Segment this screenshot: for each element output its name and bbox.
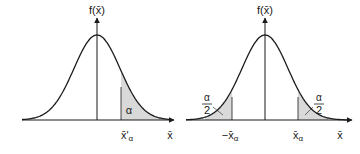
left-critical-main: −x̄	[222, 129, 234, 141]
fraction-denominator: 2	[316, 104, 322, 116]
two-sided-diagram: f(x̄) α 2 α 2 −x̄α x̄α x̄	[186, 4, 352, 143]
y-axis-label: f(x̄)	[257, 4, 273, 16]
left-tail-area-label: α 2	[202, 92, 223, 116]
one-sided-diagram: f(x̄) α x̄'α x̄	[22, 4, 174, 143]
right-critical-value-label: x̄α	[293, 129, 304, 143]
distribution-diagrams: f(x̄) α x̄'α x̄ f(x̄) α 2 α 2 −	[0, 0, 360, 154]
critical-value-label: x̄'α	[121, 129, 134, 143]
left-critical-value-label: −x̄α	[222, 129, 239, 143]
critical-value-main: x̄'	[121, 129, 129, 141]
left-critical-subscript: α	[234, 134, 239, 143]
x-axis-label: x̄	[337, 129, 343, 141]
fraction-numerator: α	[316, 92, 322, 103]
right-critical-subscript: α	[298, 134, 303, 143]
fraction-numerator: α	[204, 92, 210, 103]
right-tail-shade	[298, 90, 328, 120]
x-axis-label: x̄	[167, 129, 173, 141]
bell-curve	[186, 35, 350, 120]
fraction-denominator: 2	[204, 104, 210, 116]
critical-value-subscript: α	[129, 134, 134, 143]
tail-area-label: α	[126, 104, 133, 116]
y-axis-label: f(x̄)	[89, 4, 105, 16]
